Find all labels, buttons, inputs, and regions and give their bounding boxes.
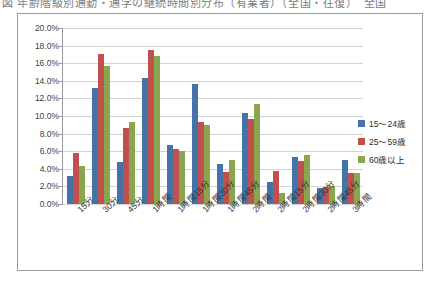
y-axis-tick-label: 4.0% [40,164,59,174]
x-axis-tick-mark [363,204,364,207]
y-axis-tick-mark [59,186,62,187]
legend-swatch [358,138,365,145]
page-caption-strip: 図 年齢階級別通勤・通学の継続時間別分布（有業者）（全国・往復） 全国 [0,0,439,11]
x-axis-tick-mark [138,204,139,207]
x-axis-tick-mark [213,204,214,207]
chart-frame: 0.0%2.0%4.0%6.0%8.0%10.0%12.0%14.0%16.0%… [17,13,423,271]
bar-group [167,28,185,204]
y-axis-tick-label: 12.0% [35,93,59,103]
y-axis-tick-mark [59,134,62,135]
legend-swatch [358,120,365,127]
page-caption-text: 図 年齢階級別通勤・通学の継続時間別分布（有業者）（全国・往復） 全国 [2,0,387,10]
y-axis-tick-mark [59,46,62,47]
x-axis-tick-mark [188,204,189,207]
chart-legend: 15〜24歳25〜59歳60歳以上 [358,114,420,168]
bar [104,66,110,204]
x-axis-tick-mark [88,204,89,207]
x-axis-labels: 15分30分45分1時間1時間15分1時間30分1時間45分2時間2時間15分2… [63,206,363,270]
plot-area [63,28,363,204]
y-axis-tick-mark [59,151,62,152]
x-axis-tick-mark [113,204,114,207]
bar [129,122,135,204]
y-axis-tick-mark [59,98,62,99]
y-axis-tick-mark [59,81,62,82]
x-axis-tick-mark [288,204,289,207]
x-axis-tick-mark [313,204,314,207]
x-axis-tick-mark [263,204,264,207]
legend-item: 15〜24歳 [358,114,420,132]
y-axis-tick-mark [59,204,62,205]
y-axis-tick-mark [59,28,62,29]
x-axis-tick-mark [163,204,164,207]
y-axis-tick-label: 2.0% [40,181,59,191]
bar [154,56,160,204]
bar-group [117,28,135,204]
y-axis-tick-label: 8.0% [40,129,59,139]
y-axis-tick-mark [59,116,62,117]
y-axis-tick-label: 6.0% [40,146,59,156]
legend-swatch [358,156,365,163]
bar-group [67,28,85,204]
legend-label: 25〜59歳 [369,135,406,147]
y-axis-tick-label: 14.0% [35,76,59,86]
y-axis-tick-label: 18.0% [35,41,59,51]
bar-group [92,28,110,204]
y-axis-tick-label: 0.0% [40,199,59,209]
legend-label: 60歳以上 [369,153,405,165]
y-axis-tick-mark [59,169,62,170]
legend-item: 25〜59歳 [358,132,420,150]
y-axis-tick-label: 10.0% [35,111,59,121]
y-axis-tick-mark [59,63,62,64]
legend-item: 60歳以上 [358,150,420,168]
y-axis-tick-label: 16.0% [35,58,59,68]
x-axis-tick-mark [338,204,339,207]
y-axis-labels: 0.0%2.0%4.0%6.0%8.0%10.0%12.0%14.0%16.0%… [18,14,59,220]
x-axis-tick-mark [238,204,239,207]
bar-group [142,28,160,204]
bar-group [267,28,285,204]
y-axis-tick-label: 20.0% [35,23,59,33]
legend-label: 15〜24歳 [369,117,406,129]
